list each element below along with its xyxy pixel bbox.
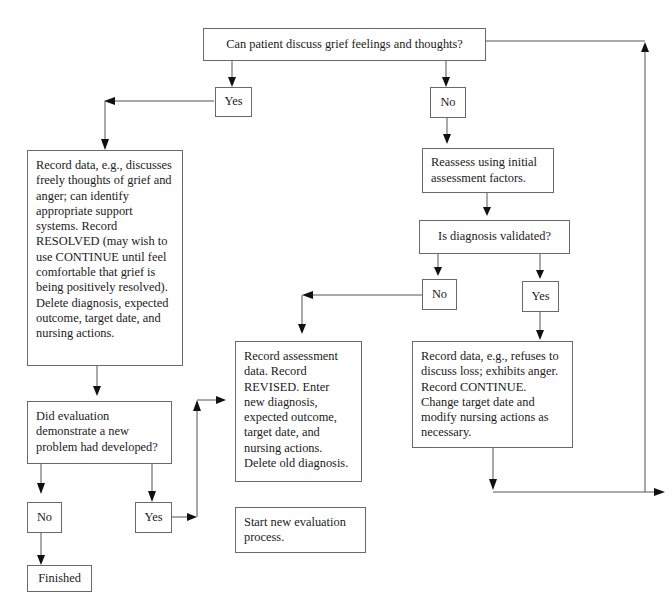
- start-no-box: No: [430, 87, 466, 118]
- new-problem-no-label: No: [37, 510, 52, 525]
- resolved-action-text: Record data, e.g., discusses freely thou…: [36, 158, 172, 340]
- finished-box: Finished: [27, 565, 92, 592]
- validated-no-label: No: [432, 287, 447, 302]
- new-evaluation-box: Start new evaluation process.: [235, 507, 366, 553]
- new-problem-no-box: No: [27, 502, 62, 533]
- new-evaluation-text: Start new evaluation process.: [244, 515, 346, 544]
- new-problem-yes-box: Yes: [135, 502, 172, 533]
- resolved-action-box: Record data, e.g., discusses freely thou…: [27, 150, 183, 366]
- validated-no-box: No: [422, 279, 457, 310]
- start-question-text: Can patient discuss grief feelings and t…: [226, 37, 463, 52]
- revised-action-box: Record assessment data. Record REVISED. …: [235, 341, 362, 482]
- validated-yes-box: Yes: [522, 281, 559, 312]
- continue-action-text: Record data, e.g., refuses to discuss lo…: [421, 349, 559, 439]
- start-yes-label: Yes: [224, 94, 242, 109]
- new-problem-yes-label: Yes: [144, 510, 162, 525]
- new-problem-question-box: Did evaluation demonstrate a new problem…: [27, 401, 172, 464]
- validated-question-box: Is diagnosis validated?: [419, 220, 570, 254]
- start-question-box: Can patient discuss grief feelings and t…: [203, 28, 486, 61]
- validated-yes-label: Yes: [531, 289, 549, 304]
- continue-action-box: Record data, e.g., refuses to discuss lo…: [412, 341, 573, 448]
- new-problem-question-text: Did evaluation demonstrate a new problem…: [36, 409, 158, 454]
- revised-action-text: Record assessment data. Record REVISED. …: [244, 349, 348, 470]
- start-yes-box: Yes: [215, 87, 252, 117]
- validated-question-text: Is diagnosis validated?: [438, 229, 551, 244]
- finished-label: Finished: [38, 571, 81, 586]
- start-no-label: No: [440, 95, 455, 110]
- reassess-text: Reassess using initial assessment factor…: [423, 155, 553, 186]
- reassess-box: Reassess using initial assessment factor…: [422, 148, 554, 193]
